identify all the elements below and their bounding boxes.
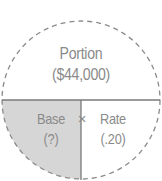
rate-value: (.20)	[92, 131, 135, 146]
rate-label: Rate	[92, 111, 135, 126]
portion-base-rate-diagram: Portion ($44,000) Base (?) × Rate (.20)	[0, 0, 162, 181]
base-value: (?)	[30, 131, 73, 146]
base-label: Base	[30, 111, 73, 126]
portion-value: ($44,000)	[37, 67, 125, 83]
portion-label: Portion	[46, 46, 116, 62]
multiply-icon: ×	[74, 111, 90, 126]
formula-circle	[0, 0, 162, 181]
